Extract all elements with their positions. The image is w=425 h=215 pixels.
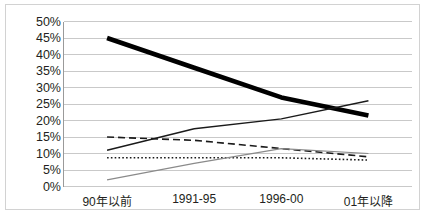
- x-tick-1: 1991-95: [172, 192, 216, 206]
- plot-area: [0, 0, 425, 215]
- gridlines: [64, 22, 413, 187]
- line-chart: 0%5%10%15%20%25%30%35%40%45%50% 90年以前199…: [0, 0, 425, 215]
- x-tick-3: 01年以降: [344, 192, 393, 209]
- x-tick-0: 90年以前: [82, 192, 131, 209]
- data-series-group: [107, 38, 368, 180]
- x-tick-2: 1996-00: [259, 192, 303, 206]
- series-4-dotted: [107, 158, 368, 160]
